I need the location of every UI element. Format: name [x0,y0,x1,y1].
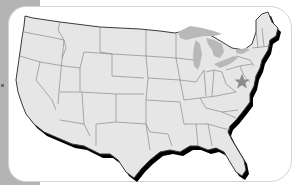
us-map [0,0,294,185]
us-land [16,12,278,178]
